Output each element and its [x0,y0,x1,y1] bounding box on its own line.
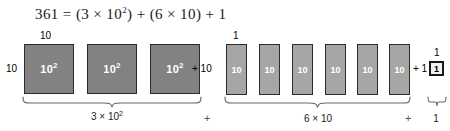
ten-block-label: 10 [390,65,409,75]
equation-term2: (6 × 10) [150,6,202,22]
ten-block: 10 [292,44,313,95]
summary-operator-1: + [204,112,210,124]
ten-block: 10 [389,44,410,95]
ten-block-label: 10 [358,65,377,75]
equation-plus-1: + [137,6,146,22]
ten-block: 10 [259,44,280,95]
equation-term1-close: ) [127,6,132,22]
ten-block-label: 10 [260,65,279,75]
equation-lhs: 361 [35,6,59,22]
tens-top-dimension-label: 1 [233,30,239,41]
ten-block: 10 [226,44,247,95]
summary-operator-2: + [405,112,411,124]
hundred-block: 102 [87,44,137,94]
hundreds-left-dimension-label: 10 [6,63,17,74]
equation-term1-open: (3 × 10 [76,6,122,22]
ten-block-label: 10 [227,65,246,75]
tens-summary-label: 6 × 10 [273,113,363,124]
ten-block: 10 [325,44,346,95]
equation-equals: = [63,6,72,22]
hundred-block-label: 102 [25,63,73,75]
units-summary-label: 1 [428,113,444,124]
units-top-dimension-label: 1 [434,47,440,58]
hundreds-summary-label: 3 × 102 [62,111,152,122]
hundred-block: 102 [24,44,74,94]
unit-block: 1 [429,61,444,76]
units-brace [427,96,447,108]
hundreds-top-dimension-label: 10 [40,30,51,41]
equation-line: 361 = (3 × 102) + (6 × 10) + 1 [35,6,226,23]
ten-block-label: 10 [326,65,345,75]
hundreds-brace [22,96,202,108]
equation-term3: 1 [219,6,227,22]
tens-operator-prefix: + 10 [192,63,212,74]
equation-plus-2: + [205,6,214,22]
units-operator-prefix: + 1 [413,63,427,74]
hundred-block-label: 102 [88,63,136,75]
place-value-figure: 361 = (3 × 102) + (6 × 10) + 1 10 10 102… [0,0,450,131]
tens-brace [224,96,411,108]
ten-block-label: 10 [293,65,312,75]
ten-block: 10 [357,44,378,95]
unit-block-label: 1 [431,64,442,74]
